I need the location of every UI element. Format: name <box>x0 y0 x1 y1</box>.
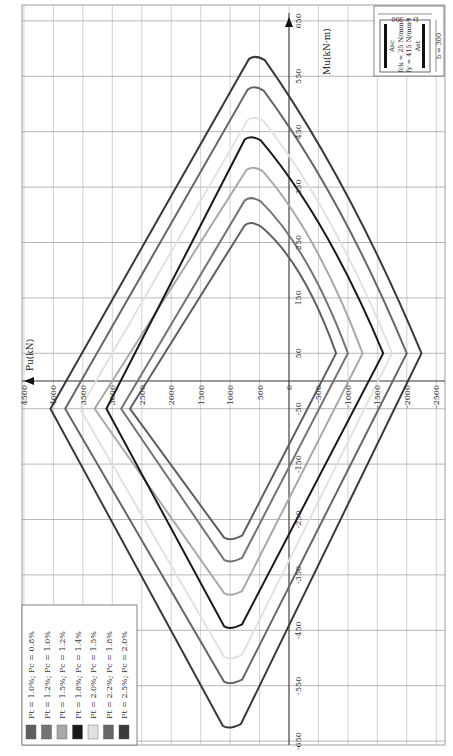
mu-axis-label: Mu(kN·m) <box>322 28 332 75</box>
mu-tick-label: 250 <box>294 235 303 250</box>
pu-tick-label: -1500 <box>373 385 382 408</box>
mu-tick-label: -550 <box>294 677 303 695</box>
fy-label: fy = 415 N/mm² <box>405 19 413 72</box>
pu-tick-label: -1000 <box>344 385 353 408</box>
pu-tick-label: 500 <box>256 385 265 400</box>
pu-tick-label: 3500 <box>79 385 88 405</box>
legend-swatch <box>73 725 83 739</box>
legend-label: Pt = 1.0%; Pc = 0.8% <box>27 631 36 719</box>
ast-bar <box>422 24 425 68</box>
mu-tick-label: -350 <box>294 566 303 584</box>
mu-tick-label: -250 <box>294 511 303 529</box>
mu-tick-label: 350 <box>294 179 303 194</box>
mu-tick-label: -450 <box>294 621 303 639</box>
legend-swatch <box>119 725 129 739</box>
interaction-chart: Pu(kN)Mu(kN·m) 4500400035003000250020001… <box>0 0 453 756</box>
mu-tick-label: 650 <box>294 13 303 28</box>
mu-tick-label: 450 <box>294 124 303 139</box>
pu-tick-label: 4500 <box>20 385 29 405</box>
pu-tick-label: 2500 <box>138 385 147 405</box>
pu-axis-label: Pu(kN) <box>25 339 35 371</box>
fck-label: fck = 25 N/mm² <box>397 19 405 72</box>
legend: Pt = 1.0%; Pc = 0.8%Pt = 1.2%; Pc = 1.0%… <box>22 605 137 745</box>
asc-label: Asc <box>388 40 396 53</box>
legend-label: Pt = 2.5%; Pc = 2.0% <box>120 631 129 719</box>
ast-label: Ast <box>414 40 422 52</box>
legend-label: Pt = 2.2%; Pc = 1.8% <box>105 631 114 719</box>
mu-tick-label: -650 <box>294 732 303 750</box>
dim-b-label: b = 300 <box>435 33 443 59</box>
legend-swatch <box>26 725 36 739</box>
pu-tick-label: -2500 <box>432 385 441 408</box>
mu-tick-label: 550 <box>294 69 303 84</box>
mu-tick-label: -50 <box>294 402 303 415</box>
section-inset: D = 500b = 300AscAstfck = 25 N/mm²fy = 4… <box>374 6 444 76</box>
pu-tick-label: -500 <box>314 385 323 403</box>
legend-label: Pt = 1.2%; Pc = 1.0% <box>43 631 52 719</box>
mu-tick-label: -150 <box>294 455 303 473</box>
legend-swatch <box>57 725 67 739</box>
pu-tick-label: 0 <box>285 385 294 390</box>
pu-tick-label: -2000 <box>403 385 412 408</box>
asc-bar <box>384 24 387 68</box>
legend-swatch <box>104 725 114 739</box>
legend-swatch <box>88 725 98 739</box>
legend-label: Pt = 1.5%; Pc = 1.2% <box>58 631 67 719</box>
legend-swatch <box>42 725 52 739</box>
pu-tick-label: 3000 <box>108 385 117 405</box>
mu-tick-label: 150 <box>294 290 303 305</box>
legend-label: Pt = 1.8%; Pc = 1.4% <box>74 631 83 719</box>
pu-tick-label: 2000 <box>167 385 176 405</box>
mu-tick-label: 50 <box>294 348 303 358</box>
pu-tick-label: 1500 <box>197 385 206 405</box>
pu-tick-label: 4000 <box>49 385 58 405</box>
legend-label: Pt = 2.0%; Pc = 1.5% <box>89 631 98 719</box>
pu-tick-label: 1000 <box>226 385 235 405</box>
